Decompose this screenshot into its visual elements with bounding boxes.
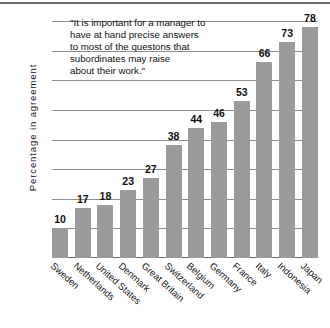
quote-annotation: "It is important for a manager tohave at… [70, 17, 250, 77]
annotation-line: have at hand precise answers [70, 29, 250, 41]
bar[interactable]: 38 [166, 145, 182, 258]
bar[interactable]: 53 [234, 101, 250, 258]
annotation-line: about their work." [70, 65, 250, 77]
bar-slot: 78 [302, 21, 318, 258]
bar[interactable]: 23 [120, 190, 136, 258]
bar-value-label: 66 [259, 48, 271, 59]
annotation-line: subordinates may raise [70, 53, 250, 65]
annotation-line: to most of the questons that [70, 41, 250, 53]
bar-chart: Percentage in agreement 0102030405060708… [0, 0, 330, 328]
plot-area: 01020304050607080 1017182327384446536673… [52, 21, 318, 258]
bar[interactable]: 44 [188, 128, 204, 258]
bar[interactable]: 73 [279, 42, 295, 258]
annotation-line: "It is important for a manager to [70, 17, 250, 29]
bar-slot: 10 [52, 21, 68, 258]
bar[interactable]: 27 [143, 178, 159, 258]
bar-value-label: 18 [100, 191, 112, 202]
bar-value-label: 78 [304, 13, 316, 24]
bar-value-label: 46 [213, 108, 225, 119]
bar-slot: 73 [279, 21, 295, 258]
bar-value-label: 23 [122, 176, 134, 187]
bar[interactable]: 10 [52, 228, 68, 258]
bar[interactable]: 66 [256, 62, 272, 258]
x-axis-tick-labels: SwedenNetherlandsUnited StatesDenmarkGre… [52, 260, 318, 326]
bar[interactable]: 18 [97, 205, 113, 258]
bar-value-label: 27 [145, 164, 157, 175]
bar[interactable]: 17 [75, 208, 91, 258]
bar-value-label: 44 [190, 114, 202, 125]
bar-value-label: 53 [236, 87, 248, 98]
bar-value-label: 73 [281, 28, 293, 39]
bar-value-label: 38 [168, 131, 180, 142]
y-axis-title: Percentage in agreement [27, 38, 38, 218]
bar-slot: 66 [256, 21, 272, 258]
bar[interactable]: 78 [302, 27, 318, 258]
bar[interactable]: 46 [211, 122, 227, 258]
bar-value-label: 17 [77, 194, 89, 205]
bar-value-label: 10 [54, 214, 66, 225]
